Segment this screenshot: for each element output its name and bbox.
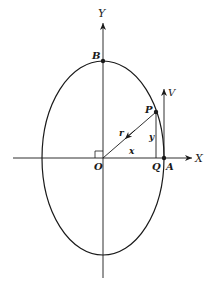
label-o: O bbox=[94, 161, 103, 172]
point-a-dot bbox=[162, 156, 166, 160]
label-x-axis: X bbox=[194, 152, 204, 165]
label-y: y bbox=[148, 132, 155, 142]
point-b-dot bbox=[101, 59, 105, 63]
ellipse-diagram: Y X B P O Q A V r x y bbox=[0, 0, 211, 286]
label-b: B bbox=[91, 50, 100, 61]
label-x: x bbox=[128, 146, 135, 156]
radius-arrow bbox=[125, 130, 135, 139]
label-q: Q bbox=[152, 161, 161, 172]
label-v: V bbox=[168, 87, 177, 98]
point-p-dot bbox=[154, 110, 158, 114]
label-p: P bbox=[144, 104, 153, 115]
label-y-axis: Y bbox=[98, 7, 107, 20]
label-a: A bbox=[165, 161, 174, 172]
label-r: r bbox=[119, 128, 125, 138]
right-angle-marker bbox=[95, 151, 103, 158]
